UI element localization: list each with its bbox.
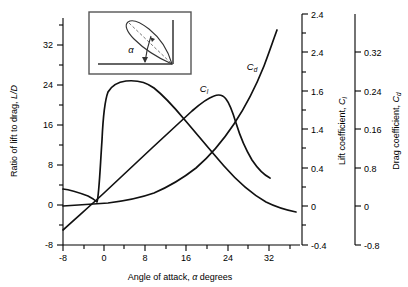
svg-text:Ratio of lift to drag, L/D: Ratio of lift to drag, L/D (9, 84, 19, 177)
bottom-axis-title-prefix: Angle of attack, (128, 272, 193, 282)
x-ticklabel-neg8: -8 (59, 253, 67, 263)
aerodynamics-coefficients-chart: 32 24 16 8 0 -8 Ratio of lift to drag, L… (0, 0, 408, 287)
bottom-axis-title-suffix: degrees (197, 272, 233, 282)
x-ticklabel-24: 24 (223, 253, 233, 263)
cl-ticklabel-top: 2.4 (311, 10, 324, 20)
x-ticklabel-16: 16 (181, 253, 191, 263)
bottom-axis-title: Angle of attack, α degrees (128, 272, 233, 282)
left-axis-title-symbol: L/D (9, 84, 19, 99)
cd-axis-title-prefix: Drag coefficient, (391, 102, 401, 169)
cl-ticklabel-1-4: 1.4 (311, 125, 324, 135)
cl-ticklabel-0-4: 0.4 (311, 164, 324, 174)
x-ticklabel-0: 0 (101, 253, 106, 263)
left-ticklabel-32: 32 (43, 40, 53, 50)
cd-ticklabel-0-24: 0.24 (364, 87, 382, 97)
cd-ticklabel-0: 0 (364, 202, 369, 212)
cl-ticklabel-neg0-4: -0.4 (311, 241, 327, 251)
cd-label-sub: d (254, 66, 258, 73)
x-ticklabel-8: 8 (142, 253, 147, 263)
svg-text:Lift coefficient, Cl: Lift coefficient, Cl (337, 97, 348, 165)
left-ticklabel-0: 0 (48, 200, 53, 210)
left-ticklabel-8: 8 (48, 160, 53, 170)
cd-ticklabel-0-8: 0.8 (364, 164, 377, 174)
cl-ticklabel-0: 0 (311, 202, 316, 212)
cl-axis-title-prefix: Lift coefficient, (337, 105, 347, 165)
left-ticklabel-16: 16 (43, 120, 53, 130)
left-ticklabel-neg8: -8 (45, 240, 53, 250)
right-inner-axis-title: Lift coefficient, Cl (337, 97, 348, 165)
left-axis-title: Ratio of lift to drag, L/D (9, 84, 19, 177)
cd-ticklabel-0-16: 0.16 (364, 125, 382, 135)
alpha-symbol-label: α (128, 44, 134, 55)
cd-ticklabel-0-32: 0.32 (364, 48, 382, 58)
cl-ticklabel-1-6: 1.6 (311, 87, 324, 97)
airfoil-inset-diagram: α (89, 12, 191, 74)
right-outer-axis-title: Drag coefficient, Cd (391, 92, 402, 170)
svg-text:Drag coefficient, Cd: Drag coefficient, Cd (391, 92, 402, 170)
left-axis-title-prefix: Ratio of lift to drag, (9, 99, 19, 177)
cd-axis-title-sub: d (395, 92, 402, 96)
cl-ticklabel-2-4: 2.4 (311, 48, 324, 58)
left-ticklabel-24: 24 (43, 80, 53, 90)
cd-ticklabel-neg0-8: -0.8 (364, 241, 380, 251)
x-ticklabel-32: 32 (264, 253, 274, 263)
